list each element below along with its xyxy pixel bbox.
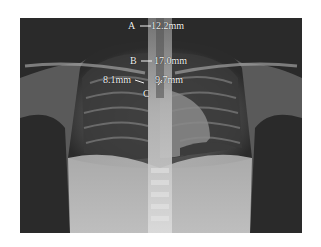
label-c-left-measurement: 8.1mm [103, 75, 131, 85]
label-c-letter: C [143, 89, 150, 99]
xray-rendering [20, 18, 302, 233]
chest-xray-image: A 12.2mm B 17.0mm 8.1mm 9.7mm C [20, 18, 302, 233]
label-b-measurement: 17.0mm [154, 56, 187, 66]
label-a-measurement: 12.2mm [151, 21, 184, 31]
label-a-letter: A [128, 21, 135, 31]
label-c-right-measurement: 9.7mm [155, 75, 183, 85]
label-b-letter: B [130, 56, 137, 66]
